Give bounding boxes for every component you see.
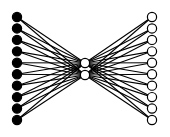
input-node-4: [12, 47, 21, 56]
input-node-2: [12, 24, 21, 33]
output-node-6: [147, 70, 156, 79]
edge: [85, 28, 152, 75]
input-node-3: [12, 35, 21, 44]
output-node-2: [147, 24, 156, 33]
input-node-1: [12, 12, 21, 21]
edge: [17, 63, 85, 109]
edge: [85, 74, 152, 75]
output-node-7: [147, 81, 156, 90]
bottleneck-node-2: [80, 70, 89, 79]
output-node-1: [147, 12, 156, 21]
connection-edges: [17, 17, 152, 120]
input-node-6: [12, 70, 21, 79]
input-node-8: [12, 93, 21, 102]
output-node-8: [147, 93, 156, 102]
output-node-3: [147, 35, 156, 44]
output-node-10: [147, 115, 156, 124]
edge: [85, 17, 152, 75]
edge: [17, 17, 85, 63]
input-node-7: [12, 81, 21, 90]
autoencoder-diagram: [0, 0, 170, 137]
output-node-4: [147, 47, 156, 56]
edge: [85, 75, 152, 97]
output-node-5: [147, 58, 156, 67]
output-node-9: [147, 104, 156, 113]
edge: [85, 17, 152, 63]
input-node-10: [12, 115, 21, 124]
bottleneck-node-1: [80, 58, 89, 67]
edge: [17, 40, 85, 63]
input-node-5: [12, 58, 21, 67]
input-node-9: [12, 104, 21, 113]
edge: [17, 51, 85, 63]
